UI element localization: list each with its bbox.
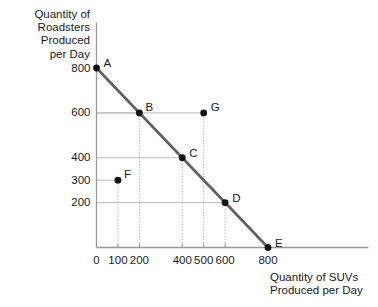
ytick-label-800: 800 <box>61 62 91 74</box>
data-point-E <box>265 244 272 251</box>
vertical-gridlines <box>118 113 268 248</box>
y-axis-title: Quantity of Roadsters Produced per Day <box>2 8 90 61</box>
point-label-E: E <box>275 237 283 249</box>
xtick-label-200: 200 <box>124 254 154 266</box>
ppf-chart: Quantity of Roadsters Produced per Day Q… <box>0 0 378 307</box>
data-point-C <box>179 154 186 161</box>
ytick-label-300: 300 <box>61 174 91 186</box>
point-label-C: C <box>189 147 197 159</box>
xtick-label-600: 600 <box>210 254 240 266</box>
ytick-label-200: 200 <box>61 196 91 208</box>
data-point-A <box>93 65 100 72</box>
data-point-D <box>222 199 229 206</box>
data-point-G <box>200 109 207 116</box>
x-axis-title: Quantity of SUVs Produced per Day <box>270 271 376 297</box>
point-label-D: D <box>232 192 240 204</box>
data-point-B <box>136 109 143 116</box>
xtick-label-800: 800 <box>253 254 283 266</box>
point-label-A: A <box>104 57 112 69</box>
point-label-F: F <box>124 168 131 180</box>
ytick-label-400: 400 <box>61 151 91 163</box>
data-point-F <box>115 177 122 184</box>
chart-axes <box>97 23 369 248</box>
point-label-B: B <box>145 101 153 113</box>
point-label-G: G <box>211 101 220 113</box>
ytick-label-600: 600 <box>61 106 91 118</box>
